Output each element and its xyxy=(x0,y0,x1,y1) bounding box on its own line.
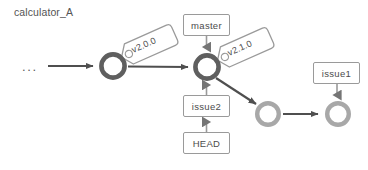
ref-box-issue2[interactable]: issue2 xyxy=(183,95,230,117)
commit-node-2[interactable] xyxy=(195,55,218,78)
commit-node-4[interactable] xyxy=(327,103,349,125)
ref-box-issue1[interactable]: issue1 xyxy=(313,62,360,84)
commit-node-1[interactable] xyxy=(101,54,124,77)
commit-node-3[interactable] xyxy=(257,103,279,125)
repository-label: calculator_A xyxy=(14,6,73,18)
ref-box-master[interactable]: master xyxy=(183,14,230,36)
ref-box-head[interactable]: HEAD xyxy=(183,132,230,154)
edge-commit1-to-commit2 xyxy=(128,67,188,68)
earlier-history-ellipsis: ... xyxy=(22,60,38,73)
git-history-diagram: calculator_A ... v2.0.0 v2.1.0 master is… xyxy=(0,0,368,170)
